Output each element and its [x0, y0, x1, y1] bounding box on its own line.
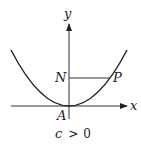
caption-variable: c — [55, 126, 63, 141]
y-axis-label: y — [63, 6, 72, 21]
x-axis-label: x — [130, 98, 138, 113]
point-p-label: P — [112, 70, 122, 85]
caption: c > 0 — [55, 124, 91, 141]
caption-operator: > — [68, 127, 78, 141]
parabola-diagram: y x N P A c > 0 — [0, 0, 141, 147]
caption-value: 0 — [83, 127, 91, 141]
point-n-label: N — [54, 70, 67, 85]
point-a-label: A — [56, 108, 66, 123]
